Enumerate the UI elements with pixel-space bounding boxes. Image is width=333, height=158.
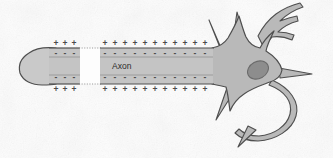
charge-plus-outer-top: + xyxy=(133,38,138,48)
charge-plus-outer-top: + xyxy=(143,38,148,48)
charge-minus-inner-top: - xyxy=(174,48,177,58)
charge-plus-outer-bottom: + xyxy=(203,84,208,94)
charge-plus-outer-bottom: + xyxy=(163,84,168,94)
charge-minus-inner-bottom: - xyxy=(184,72,187,82)
charge-plus-outer-top: + xyxy=(163,38,168,48)
charge-minus-inner-top: - xyxy=(104,48,107,58)
charge-plus-outer-top: + xyxy=(103,38,108,48)
charge-plus-outer-bottom: + xyxy=(183,84,188,94)
charge-plus-outer-bottom: + xyxy=(123,84,128,94)
charge-plus-outer-top: + xyxy=(54,38,59,48)
charge-plus-outer-bottom: + xyxy=(103,84,108,94)
charge-plus-outer-top: + xyxy=(123,38,128,48)
charge-minus-inner-top: - xyxy=(154,48,157,58)
charge-minus-inner-bottom: - xyxy=(64,72,67,82)
charge-minus-inner-bottom: - xyxy=(124,72,127,82)
charge-plus-outer-top: + xyxy=(173,38,178,48)
charge-plus-outer-bottom: + xyxy=(173,84,178,94)
charge-minus-inner-top: - xyxy=(194,48,197,58)
charge-minus-inner-bottom: - xyxy=(104,72,107,82)
charge-minus-inner-bottom: - xyxy=(154,72,157,82)
charge-minus-inner-bottom: - xyxy=(174,72,177,82)
charge-minus-inner-top: - xyxy=(73,48,76,58)
charge-minus-inner-bottom: - xyxy=(55,72,58,82)
charge-minus-inner-top: - xyxy=(114,48,117,58)
charge-plus-outer-top: + xyxy=(183,38,188,48)
charge-minus-inner-bottom: - xyxy=(114,72,117,82)
charge-minus-inner-bottom: - xyxy=(194,72,197,82)
charge-minus-inner-top: - xyxy=(164,48,167,58)
charge-plus-outer-bottom: + xyxy=(193,84,198,94)
neuron-diagram-figure: +++ +++++++++++ --- ----------- --- ----… xyxy=(0,0,333,158)
charge-plus-outer-bottom: + xyxy=(72,84,77,94)
charge-plus-outer-bottom: + xyxy=(54,84,59,94)
charge-plus-outer-bottom: + xyxy=(63,84,68,94)
charge-minus-inner-top: - xyxy=(134,48,137,58)
charge-minus-inner-bottom: - xyxy=(134,72,137,82)
charge-minus-inner-top: - xyxy=(144,48,147,58)
charge-minus-inner-top: - xyxy=(64,48,67,58)
charge-plus-outer-top: + xyxy=(113,38,118,48)
axon-gap-node xyxy=(80,48,100,84)
charge-minus-inner-bottom: - xyxy=(204,72,207,82)
charge-plus-outer-bottom: + xyxy=(143,84,148,94)
charge-plus-outer-bottom: + xyxy=(113,84,118,94)
charge-minus-inner-bottom: - xyxy=(73,72,76,82)
charge-minus-inner-top: - xyxy=(204,48,207,58)
charge-plus-outer-top: + xyxy=(193,38,198,48)
axon-label: Axon xyxy=(112,61,132,71)
charge-minus-inner-top: - xyxy=(124,48,127,58)
charge-plus-outer-top: + xyxy=(63,38,68,48)
charge-minus-inner-bottom: - xyxy=(164,72,167,82)
charge-minus-inner-top: - xyxy=(184,48,187,58)
charge-minus-inner-bottom: - xyxy=(144,72,147,82)
charge-minus-inner-top: - xyxy=(55,48,58,58)
charge-plus-outer-top: + xyxy=(153,38,158,48)
charge-plus-outer-top: + xyxy=(203,38,208,48)
charge-plus-outer-bottom: + xyxy=(133,84,138,94)
charge-plus-outer-top: + xyxy=(72,38,77,48)
charge-plus-outer-bottom: + xyxy=(153,84,158,94)
neuron-illustration: +++ +++++++++++ --- ----------- --- ----… xyxy=(0,0,333,158)
